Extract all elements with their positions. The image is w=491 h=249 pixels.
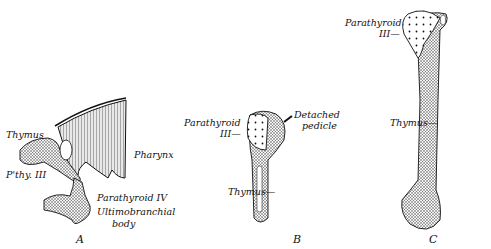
label-b-iii: III— <box>220 129 241 139</box>
label-a-thymus: Thymus <box>6 130 44 140</box>
label-c-iii: III— <box>379 29 400 39</box>
label-a-parathyroid-iv: Parathyroid IV <box>97 193 167 203</box>
label-a-body: body <box>112 219 135 229</box>
ultimobranchial-shape <box>44 178 90 224</box>
label-b-pedicle: pedicle <box>302 121 337 131</box>
label-b-thymus: Thymus— <box>228 187 275 197</box>
label-c-parathyroid: Parathyroid <box>345 18 402 28</box>
caption-b: B <box>293 234 301 245</box>
caption-c: C <box>429 234 437 245</box>
panel-a-drawing <box>20 98 126 224</box>
label-c-thymus: Thymus— <box>390 118 437 128</box>
caption-a: A <box>76 234 84 245</box>
label-a-pthy-iii: P'thy. III <box>6 170 46 180</box>
label-a-ultimobranchial: Ultimobranchial <box>97 207 175 217</box>
panel-b-drawing <box>247 111 292 222</box>
label-b-detached: Detached <box>294 110 340 120</box>
label-a-pharynx: Pharynx <box>134 150 174 160</box>
label-b-parathyroid: Parathyroid <box>184 118 241 128</box>
